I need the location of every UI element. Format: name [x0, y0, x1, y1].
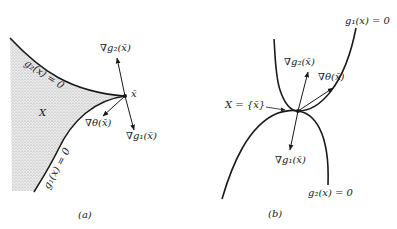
- label-grad-g1-a: ∇g₁(x̄): [126, 131, 157, 141]
- label-grad-g2-a: ∇g₂(x̄): [100, 43, 131, 53]
- caption-b: (b): [268, 208, 282, 219]
- label-grad-g1-b: ∇g₁(x̄): [275, 155, 306, 165]
- arrow-feasible-set-pointer: [266, 107, 285, 110]
- label-xbar-a: x̄: [131, 89, 137, 99]
- arrow-grad-g2-a: [117, 58, 125, 96]
- label-g2-curve-b: g₂(x) = 0: [308, 188, 353, 198]
- label-region-x: X: [39, 108, 46, 118]
- label-g1-curve-b: g₁(x) = 0: [345, 16, 390, 26]
- arrow-grad-g1-b: [290, 111, 298, 150]
- caption-a: (a): [78, 209, 92, 220]
- arrow-grad-g1-a: [125, 96, 134, 130]
- label-feasible-set-b: X = {x̄}: [225, 100, 265, 110]
- label-grad-theta-b: ∇θ(x̄): [318, 72, 344, 82]
- label-grad-g2-b: ∇g₂(x̄): [284, 57, 315, 67]
- label-grad-theta-a: ∇θ(x̄): [85, 118, 111, 128]
- curve-g1-b: [274, 28, 356, 111]
